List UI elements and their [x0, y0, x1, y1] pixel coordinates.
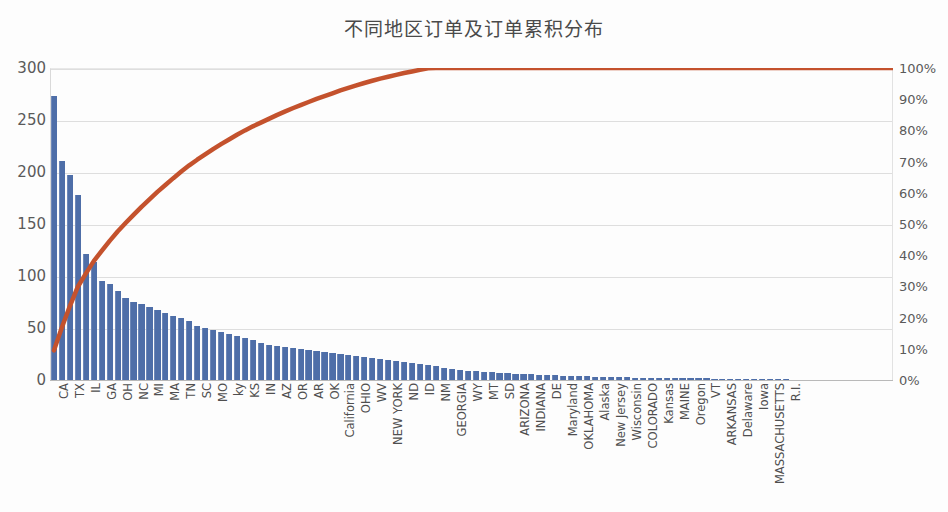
x-tick-label: WV	[377, 383, 389, 402]
x-tick-label: MA	[170, 383, 182, 401]
x-tick-label: OHIO	[361, 383, 373, 413]
bar	[401, 362, 407, 380]
x-tick-label: IL	[91, 383, 103, 393]
x-tick-label: MO	[218, 383, 230, 402]
bar	[186, 321, 192, 380]
bar	[122, 298, 128, 380]
bar	[441, 368, 447, 380]
x-tick-label: Alaska	[600, 383, 612, 421]
bar	[170, 316, 176, 380]
bar	[504, 373, 510, 380]
bar	[154, 310, 160, 380]
x-tick-label: AZ	[282, 383, 294, 399]
bar	[377, 359, 383, 380]
y-tick-left: 150	[2, 217, 46, 232]
bar	[457, 370, 463, 380]
x-tick-label: MASSACHUSETTS	[775, 383, 787, 484]
bar	[107, 284, 113, 380]
bar	[250, 340, 256, 380]
y-tick-right: 100%	[899, 62, 947, 75]
bar	[313, 351, 319, 380]
y-tick-left: 200	[2, 165, 46, 180]
y-tick-right: 30%	[899, 280, 947, 293]
bar	[67, 175, 73, 380]
bar	[345, 355, 351, 380]
x-tick-label: TN	[186, 383, 198, 399]
y-tick-right: 80%	[899, 124, 947, 137]
y-tick-right: 50%	[899, 218, 947, 231]
y-tick-right: 40%	[899, 249, 947, 262]
y-tick-right: 0%	[899, 374, 947, 387]
x-tick-label: AR	[314, 383, 326, 399]
bar	[59, 161, 65, 380]
bar	[83, 254, 89, 380]
y-tick-left: 100	[2, 269, 46, 284]
x-tick-label: GA	[107, 383, 119, 400]
bar	[433, 366, 439, 380]
bar	[258, 343, 264, 380]
bar	[130, 302, 136, 380]
x-tick-label: Wisconsin	[632, 383, 644, 440]
bar	[393, 361, 399, 380]
x-tick-label: Iowa	[759, 383, 771, 410]
bar	[242, 338, 248, 380]
y-tick-right: 60%	[899, 187, 947, 200]
bar	[91, 262, 97, 380]
x-tick-label: NM	[441, 383, 453, 402]
bar	[51, 96, 57, 380]
x-axis-line	[50, 380, 893, 381]
bar	[75, 195, 81, 380]
y-tick-right: 70%	[899, 156, 947, 169]
x-tick-label: MT	[489, 383, 501, 400]
bar	[473, 371, 479, 380]
y-axis-right: 0%10%20%30%40%50%60%70%80%90%100%	[899, 0, 948, 512]
bar	[146, 307, 152, 380]
bar	[266, 345, 272, 380]
bar	[226, 334, 232, 380]
x-tick-label: ND	[409, 383, 421, 400]
x-tick-label: KS	[250, 383, 262, 398]
bar	[496, 373, 502, 380]
y-tick-right: 10%	[899, 343, 947, 356]
bar	[353, 356, 359, 380]
x-tick-label: ARKANSAS	[727, 383, 739, 445]
x-tick-label: DE	[552, 383, 564, 399]
bar	[489, 372, 495, 380]
y-tick-left: 250	[2, 113, 46, 128]
x-tick-label: New Jersey	[616, 383, 628, 447]
x-tick-label: ID	[425, 383, 437, 395]
bar	[385, 360, 391, 380]
x-tick-label: VT	[711, 383, 723, 398]
x-tick-label: CA	[59, 383, 71, 399]
x-tick-label: IN	[266, 383, 278, 395]
bar	[337, 354, 343, 380]
bar	[282, 347, 288, 380]
bar	[361, 357, 367, 380]
x-tick-label: ky	[234, 383, 246, 396]
bar	[329, 353, 335, 380]
x-tick-label: NC	[139, 383, 151, 400]
bar	[194, 326, 200, 380]
x-tick-label: INDIANA	[536, 383, 548, 432]
bar	[290, 348, 296, 380]
y-tick-left: 50	[2, 321, 46, 336]
bar	[449, 369, 455, 380]
bar	[417, 364, 423, 380]
bar	[409, 363, 415, 380]
bar	[305, 350, 311, 380]
x-tick-label: Delaware	[743, 383, 755, 437]
x-tick-label: ARIZONA	[520, 383, 532, 436]
x-tick-label: Kansas	[664, 383, 676, 424]
x-tick-label: R.I.	[791, 383, 803, 401]
bar	[321, 352, 327, 380]
x-tick-label: OH	[123, 383, 135, 401]
x-tick-label: COLORADO	[648, 383, 660, 448]
bar	[218, 332, 224, 380]
x-tick-label: Oregon	[696, 383, 708, 425]
bar	[162, 313, 168, 380]
bar	[115, 291, 121, 380]
chart-title: 不同地区订单及订单累积分布	[0, 14, 948, 41]
bar	[178, 318, 184, 380]
bar	[202, 328, 208, 380]
x-tick-label: WY	[473, 383, 485, 401]
